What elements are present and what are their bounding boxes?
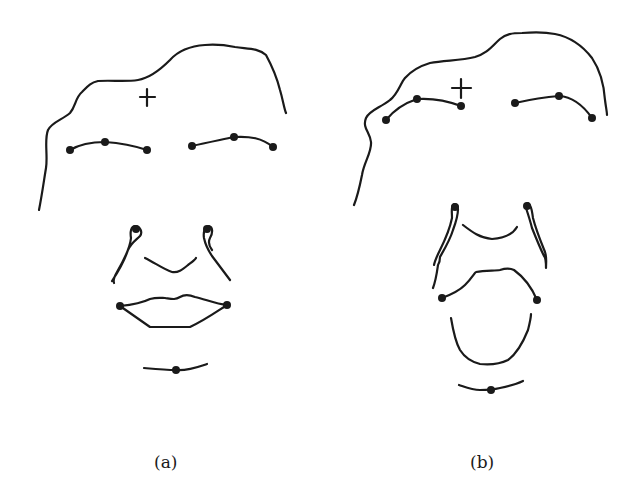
landmark-dot	[457, 102, 465, 110]
face-landmark-figure	[0, 0, 638, 497]
nose-right-a	[204, 226, 230, 280]
landmark-dot	[188, 142, 196, 150]
landmark-dot	[203, 225, 211, 233]
landmark-dot	[382, 116, 390, 124]
landmark-points-a	[66, 133, 277, 374]
landmark-dot	[132, 225, 140, 233]
face-b-outline	[354, 32, 607, 205]
mouth-lower-b	[451, 314, 531, 364]
mouth-lower-a	[120, 305, 227, 327]
landmark-dot	[523, 202, 531, 210]
nose-right-b	[526, 203, 547, 268]
landmark-points-b	[382, 92, 596, 394]
landmark-dot	[172, 366, 180, 374]
panel-a-caption: (a)	[154, 452, 177, 472]
landmark-dot	[101, 138, 109, 146]
landmark-dot	[223, 301, 231, 309]
landmark-dot	[511, 99, 519, 107]
right-brow-b	[515, 96, 592, 118]
panel-b-face	[354, 32, 607, 394]
left-brow-b	[386, 99, 461, 120]
nose-left-b	[433, 204, 458, 288]
forehead-marker-a	[140, 89, 155, 106]
landmark-dot	[438, 294, 446, 302]
landmark-dot	[451, 203, 459, 211]
mouth-upper-b	[442, 269, 537, 301]
landmark-dot	[555, 92, 563, 100]
mouth-upper-a	[120, 295, 227, 306]
landmark-dot	[143, 146, 151, 154]
landmark-dot	[269, 143, 277, 151]
panel-b-caption: (b)	[470, 452, 494, 472]
landmark-dot	[116, 302, 124, 310]
landmark-dot	[413, 95, 421, 103]
nose-bottom-b	[463, 225, 517, 239]
nose-left-a	[112, 226, 141, 283]
face-a-outline	[39, 45, 286, 210]
forehead-marker-b	[452, 79, 471, 98]
landmark-dot	[230, 133, 238, 141]
panel-a-face	[39, 45, 286, 374]
landmark-dot	[588, 114, 596, 122]
landmark-dot	[487, 386, 495, 394]
landmark-dot	[66, 146, 74, 154]
landmark-dot	[533, 296, 541, 304]
nose-bottom-a	[145, 258, 196, 272]
